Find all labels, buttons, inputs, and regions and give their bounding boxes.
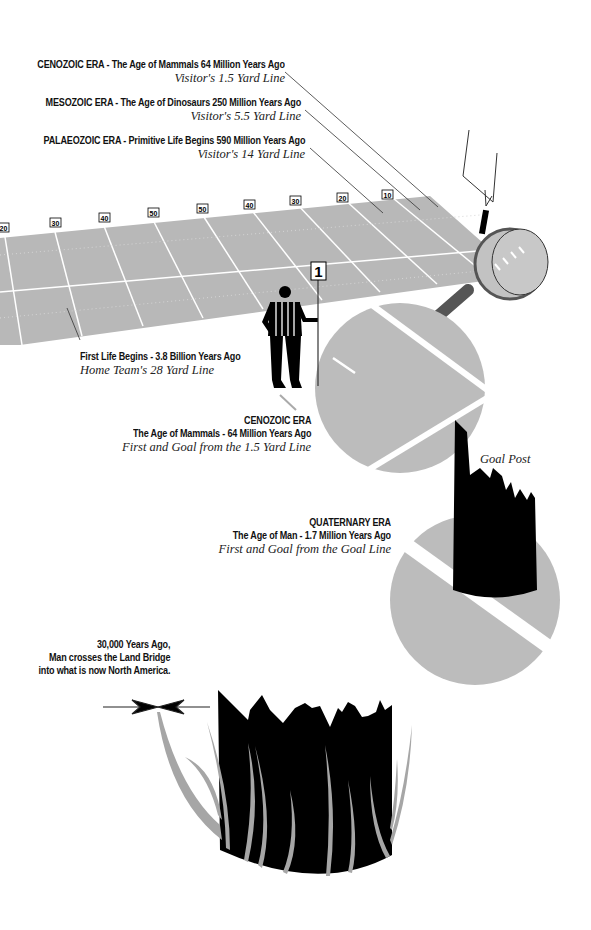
annotation-sub: Visitor's 14 Yard Line xyxy=(1,147,305,163)
annotation-title: CENOZOIC ERA xyxy=(133,414,311,427)
annotation-line: 30,000 Years Ago, xyxy=(38,638,170,651)
svg-text:30: 30 xyxy=(52,220,60,227)
annotation-head: The Age of Man - 1.7 Million Years Ago xyxy=(233,529,391,542)
annotation-first-life: First Life Begins - 3.8 Billion Years Ag… xyxy=(80,350,267,379)
annotation-mesozoic: MESOZOIC ERA - The Age of Dinosaurs 250 … xyxy=(4,96,301,125)
annotation-head: PALAEOZOIC ERA - Primitive Life Begins 5… xyxy=(43,134,305,147)
broken-goal-post xyxy=(453,420,537,598)
annotation-head: CENOZOIC ERA - The Age of Mammals 64 Mil… xyxy=(38,58,285,71)
annotation-head: MESOZOIC ERA - The Age of Dinosaurs 250 … xyxy=(46,96,301,109)
goal-post-caption: Goal Post xyxy=(480,452,530,467)
annotation-head: First Life Begins - 3.8 Billion Years Ag… xyxy=(80,350,241,363)
annotation-sub: Visitor's 1.5 Yard Line xyxy=(0,71,285,87)
annotation-palaeozoic: PALAEOZOIC ERA - Primitive Life Begins 5… xyxy=(1,134,305,163)
broken-stump xyxy=(218,690,392,874)
svg-text:20: 20 xyxy=(339,195,347,202)
svg-text:50: 50 xyxy=(150,210,158,217)
annotation-line: into what is now North America. xyxy=(38,664,170,677)
svg-text:10: 10 xyxy=(384,192,392,199)
annotation-head: The Age of Mammals - 64 Million Years Ag… xyxy=(133,427,311,440)
annotation-title: QUATERNARY ERA xyxy=(233,516,391,529)
annotation-land-bridge: 30,000 Years Ago, Man crosses the Land B… xyxy=(17,638,170,677)
svg-text:50: 50 xyxy=(199,206,207,213)
svg-text:1: 1 xyxy=(314,263,322,280)
svg-text:40: 40 xyxy=(101,215,109,222)
annotation-cenozoic-top: CENOZOIC ERA - The Age of Mammals 64 Mil… xyxy=(0,58,285,87)
annotation-cenozoic-zoom: CENOZOIC ERA The Age of Mammals - 64 Mil… xyxy=(104,414,311,456)
annotation-sub: Home Team's 28 Yard Line xyxy=(80,363,267,379)
annotation-sub: First and Goal from the Goal Line xyxy=(207,542,391,558)
svg-text:30: 30 xyxy=(292,198,300,205)
goal-post-base xyxy=(479,210,489,235)
zoom-circle-cenozoic xyxy=(315,303,500,475)
annotation-quaternary: QUATERNARY ERA The Age of Man - 1.7 Mill… xyxy=(207,516,391,558)
goal-post-small xyxy=(463,130,497,206)
svg-text:20: 20 xyxy=(0,225,7,232)
annotation-sub: First and Goal from the 1.5 Yard Line xyxy=(104,440,311,456)
svg-text:40: 40 xyxy=(246,202,254,209)
land-bridge-arrows xyxy=(103,700,210,714)
annotation-sub: Visitor's 5.5 Yard Line xyxy=(4,109,301,125)
annotation-line: Man crosses the Land Bridge xyxy=(38,651,170,664)
